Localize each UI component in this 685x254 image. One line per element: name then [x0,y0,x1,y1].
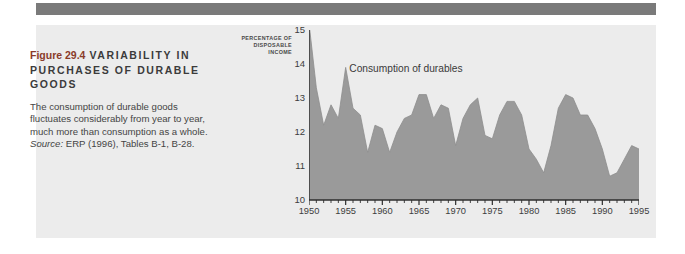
y-tick-10: 10 [294,195,305,205]
figure-source: Source: ERP (1996), Tables B-1, B-28. [30,138,215,151]
plot-area [309,30,639,200]
source-text: ERP (1996), Tables B-1, B-28. [63,138,194,149]
y-tick-11: 11 [295,161,305,171]
x-tick-1955: 1955 [335,206,356,216]
y-axis-title-line-3: INCOME [230,49,292,56]
x-tick-1960: 1960 [372,206,393,216]
plot-wrapper: 101112131415 195019551960196519701975198… [288,30,648,230]
figure-title: Figure 29.4VARIABILITY IN PURCHASES OF D… [30,48,215,92]
x-tick-1950: 1950 [299,206,320,216]
x-tick-1985: 1985 [555,206,576,216]
x-tick-1965: 1965 [409,206,430,216]
y-axis-title: PERCENTAGE OF DISPOSABLE INCOME [230,35,292,57]
x-axis-tick-labels: 1950195519601965197019751980198519901995 [309,206,639,220]
y-axis-tick-labels: 101112131415 [288,30,305,200]
source-label: Source: [30,138,63,149]
y-tick-13: 13 [294,93,305,103]
y-tick-15: 15 [294,25,305,35]
figure-caption: Figure 29.4VARIABILITY IN PURCHASES OF D… [30,48,215,151]
area-fill [309,30,639,200]
x-tick-1995: 1995 [629,206,650,216]
figure-number: Figure 29.4 [30,49,85,61]
area-chart-svg [309,30,639,210]
series-annotation-label: Consumption of durables [349,63,462,74]
x-tick-1970: 1970 [445,206,466,216]
x-tick-1975: 1975 [482,206,503,216]
y-axis-title-line-1: PERCENTAGE OF [230,35,292,42]
y-tick-14: 14 [294,59,305,69]
x-tick-1990: 1990 [592,206,613,216]
top-decorative-rule [36,3,656,15]
figure-description: The consumption of durable goods fluctua… [30,101,215,139]
y-tick-12: 12 [294,127,305,137]
y-axis-title-line-2: DISPOSABLE [230,42,292,49]
chart: PERCENTAGE OF DISPOSABLE INCOME 10111213… [230,30,655,230]
x-tick-1980: 1980 [519,206,540,216]
